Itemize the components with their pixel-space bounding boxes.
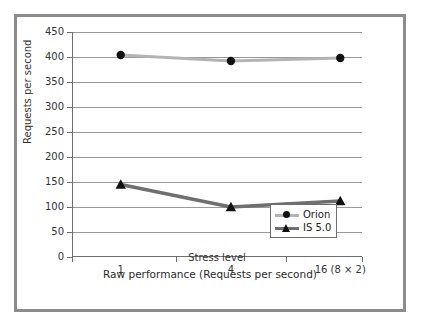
legend-item-orion[interactable]: Orion xyxy=(275,208,331,221)
y-tick-label: 0 xyxy=(58,252,64,262)
cropped-text-sliver xyxy=(100,1,280,6)
data-point-marker xyxy=(117,51,125,59)
data-point-marker xyxy=(227,57,235,65)
x-tick-mark xyxy=(362,257,363,262)
data-point-marker xyxy=(336,54,344,62)
y-tick-label: 100 xyxy=(45,202,64,212)
y-tick-label: 50 xyxy=(51,227,64,237)
y-axis-title: Requests per second xyxy=(22,40,33,144)
y-tick-label: 300 xyxy=(45,102,64,112)
legend-label-is50: IS 5.0 xyxy=(303,222,331,233)
legend-marker-triangle-icon xyxy=(275,222,299,233)
y-tick-label: 350 xyxy=(45,77,64,87)
legend-item-is50[interactable]: IS 5.0 xyxy=(275,221,331,234)
legend-label-orion: Orion xyxy=(303,209,330,220)
plot-area: 050100150200250300350400450 1416 (8 × 2)… xyxy=(72,32,362,257)
x-axis-title: Stress level xyxy=(72,252,362,264)
chart-figure: Requests per second 05010015020025030035… xyxy=(0,0,424,332)
figure-caption: Raw performance (Requests per second) xyxy=(20,268,400,280)
y-tick-label: 400 xyxy=(45,52,64,62)
legend-marker-circle-icon xyxy=(275,209,299,220)
y-tick-label: 200 xyxy=(45,152,64,162)
y-tick-label: 150 xyxy=(45,177,64,187)
y-tick-label: 250 xyxy=(45,127,64,137)
y-tick-label: 450 xyxy=(45,27,64,37)
chart-legend[interactable]: Orion IS 5.0 xyxy=(270,204,337,238)
